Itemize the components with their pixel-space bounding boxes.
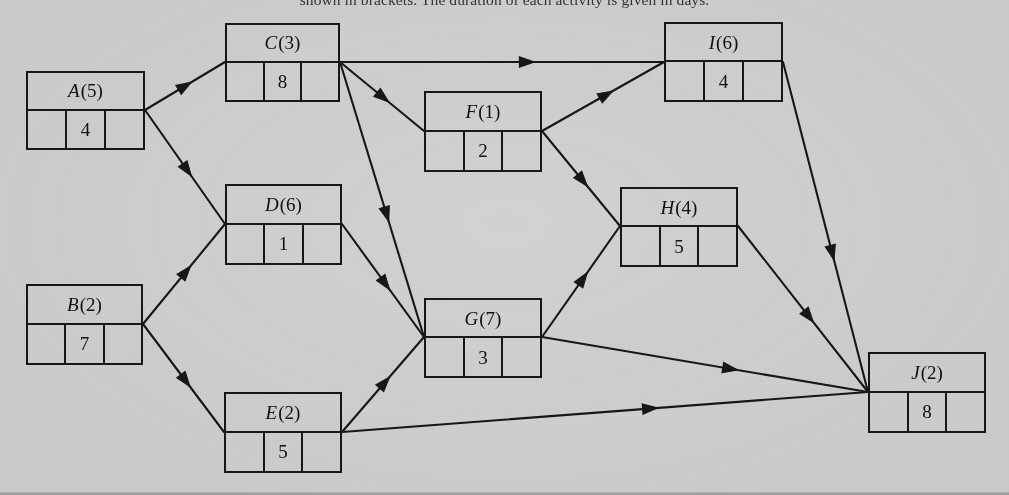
edge-e-to-g (342, 337, 424, 432)
activity-node-g[interactable]: G(7)3 (424, 298, 542, 378)
activity-duration: (2) (921, 363, 943, 382)
activity-node-header: C(3) (227, 25, 338, 63)
activity-duration: (6) (280, 195, 302, 214)
edge-h-to-j (738, 226, 868, 392)
activity-cell-right[interactable] (699, 227, 736, 265)
activity-node-cells: 5 (226, 433, 340, 472)
activity-node-cells: 8 (227, 63, 338, 101)
activity-node-header: E(2) (226, 394, 340, 433)
activity-node-header: F(1) (426, 93, 540, 132)
edge-b-to-d (143, 224, 225, 324)
activity-node-header: G(7) (426, 300, 540, 338)
edge-line (542, 337, 868, 392)
edge-line (783, 62, 868, 392)
activity-cell-middle[interactable]: 4 (65, 111, 106, 149)
activity-cell-right[interactable] (503, 338, 540, 376)
activity-label: E (266, 403, 279, 422)
activity-node-c[interactable]: C(3)8 (225, 23, 340, 102)
activity-cell-middle[interactable]: 7 (64, 325, 104, 364)
activity-cell-left[interactable] (622, 227, 659, 265)
arrowhead-icon (574, 273, 587, 288)
activity-label: A (68, 81, 81, 100)
activity-node-header: J(2) (870, 354, 984, 393)
activity-cell-right[interactable] (947, 393, 984, 432)
activity-cell-left[interactable] (28, 325, 64, 364)
activity-cell-left[interactable] (227, 225, 263, 264)
edge-a-to-d (145, 110, 225, 224)
arrowhead-icon (519, 57, 534, 67)
activity-label: I (709, 33, 716, 52)
edge-g-to-j (542, 337, 868, 392)
arrowhead-icon (642, 404, 657, 414)
activity-node-e[interactable]: E(2)5 (224, 392, 342, 473)
edge-layer (0, 0, 1009, 495)
activity-cell-middle[interactable]: 8 (907, 393, 948, 432)
arrowhead-icon (377, 274, 390, 289)
activity-cell-middle[interactable]: 8 (263, 63, 303, 101)
activity-node-b[interactable]: B(2)7 (26, 284, 143, 365)
activity-node-header: D(6) (227, 186, 340, 225)
activity-cell-middle[interactable]: 2 (463, 132, 504, 171)
edge-c-to-g (340, 62, 424, 337)
arrowhead-icon (176, 82, 192, 94)
activity-duration: (4) (675, 198, 697, 217)
activity-cell-middle[interactable]: 5 (263, 433, 304, 472)
activity-cell-left[interactable] (666, 62, 703, 100)
activity-cell-right[interactable] (503, 132, 540, 171)
activity-label: B (67, 295, 80, 314)
activity-node-a[interactable]: A(5)4 (26, 71, 145, 150)
activity-cell-right[interactable] (302, 63, 338, 101)
activity-duration: (2) (278, 403, 300, 422)
activity-cell-right[interactable] (744, 62, 781, 100)
activity-label: G (465, 309, 480, 328)
activity-node-header: A(5) (28, 73, 143, 111)
activity-cell-left[interactable] (870, 393, 907, 432)
activity-cell-right[interactable] (106, 111, 143, 149)
edge-a-to-c (145, 62, 225, 110)
activity-node-header: B(2) (28, 286, 141, 325)
activity-label: F (466, 102, 479, 121)
activity-cell-middle[interactable]: 4 (703, 62, 744, 100)
edge-d-to-g (342, 224, 424, 337)
activity-cell-left[interactable] (226, 433, 263, 472)
activity-node-cells: 7 (28, 325, 141, 364)
activity-duration: (5) (81, 81, 103, 100)
activity-duration: (2) (80, 295, 102, 314)
activity-node-header: I(6) (666, 24, 781, 62)
activity-cell-left[interactable] (28, 111, 65, 149)
activity-cell-middle[interactable]: 1 (263, 225, 303, 264)
activity-node-cells: 8 (870, 393, 984, 432)
edge-c-to-i (340, 57, 664, 67)
activity-duration: (7) (479, 309, 501, 328)
arrowhead-icon (825, 244, 835, 260)
activity-node-cells: 4 (666, 62, 781, 100)
activity-node-d[interactable]: D(6)1 (225, 184, 342, 265)
activity-node-i[interactable]: I(6)4 (664, 22, 783, 102)
activity-label: J (911, 363, 920, 382)
edge-g-to-h (542, 226, 620, 337)
activity-cell-right[interactable] (303, 433, 340, 472)
activity-node-h[interactable]: H(4)5 (620, 187, 738, 267)
activity-cell-left[interactable] (426, 338, 463, 376)
activity-duration: (3) (278, 33, 300, 52)
activity-node-cells: 4 (28, 111, 143, 149)
edge-c-to-f (340, 62, 424, 131)
activity-cell-left[interactable] (426, 132, 463, 171)
arrowhead-icon (379, 206, 389, 222)
activity-node-j[interactable]: J(2)8 (868, 352, 986, 433)
activity-node-cells: 1 (227, 225, 340, 264)
edge-b-to-e (143, 324, 224, 432)
activity-cell-right[interactable] (105, 325, 141, 364)
activity-label: H (661, 198, 676, 217)
activity-node-cells: 2 (426, 132, 540, 171)
activity-node-f[interactable]: F(1)2 (424, 91, 542, 172)
arrowhead-icon (177, 372, 190, 387)
activity-cell-middle[interactable]: 5 (659, 227, 700, 265)
activity-cell-left[interactable] (227, 63, 263, 101)
arrowhead-icon (179, 161, 192, 176)
edge-f-to-h (542, 131, 620, 226)
activity-label: C (265, 33, 279, 52)
activity-cell-middle[interactable]: 3 (463, 338, 504, 376)
edge-f-to-i (542, 62, 664, 131)
activity-cell-right[interactable] (304, 225, 340, 264)
